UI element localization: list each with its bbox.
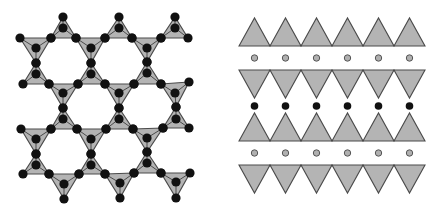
oxygen-atom-icon bbox=[86, 69, 95, 78]
black-cation-icon bbox=[375, 102, 383, 110]
oxygen-atom-icon bbox=[171, 177, 180, 186]
black-cation-icon bbox=[313, 102, 321, 110]
gray-cation-icon bbox=[251, 150, 257, 156]
oxygen-atom-icon bbox=[16, 124, 25, 133]
oxygen-atom-icon bbox=[86, 134, 95, 143]
oxygen-atom-icon bbox=[86, 149, 95, 158]
crystal-structure-figure bbox=[0, 0, 443, 210]
oxygen-atom-icon bbox=[142, 57, 151, 66]
oxygen-atom-icon bbox=[86, 58, 95, 67]
oxygen-atom-icon bbox=[86, 43, 95, 52]
oxygen-atom-icon bbox=[58, 88, 67, 97]
oxygen-atom-icon bbox=[142, 68, 151, 77]
black-cation-icon bbox=[282, 102, 290, 110]
oxygen-atom-icon bbox=[58, 12, 67, 21]
oxygen-atom-icon bbox=[18, 169, 27, 178]
oxygen-atom-icon bbox=[46, 33, 55, 42]
oxygen-atom-icon bbox=[73, 79, 82, 88]
oxygen-atom-icon bbox=[31, 58, 40, 67]
oxygen-atom-icon bbox=[18, 79, 27, 88]
oxygen-atom-icon bbox=[127, 33, 136, 42]
oxygen-atom-icon bbox=[171, 102, 180, 111]
oxygen-atom-icon bbox=[142, 158, 151, 167]
oxygen-atom-icon bbox=[114, 103, 123, 112]
oxygen-atom-icon bbox=[171, 114, 180, 123]
gray-cation-icon bbox=[251, 55, 257, 61]
gray-cation-icon bbox=[344, 55, 350, 61]
oxygen-atom-icon bbox=[74, 169, 83, 178]
oxygen-atom-icon bbox=[114, 23, 123, 32]
oxygen-atom-icon bbox=[114, 114, 123, 123]
oxygen-atom-icon bbox=[142, 147, 151, 156]
oxygen-atom-icon bbox=[31, 43, 40, 52]
oxygen-atom-icon bbox=[185, 168, 194, 177]
gray-cation-icon bbox=[375, 55, 381, 61]
oxygen-atom-icon bbox=[59, 194, 68, 203]
gray-cation-icon bbox=[313, 150, 319, 156]
oxygen-atom-icon bbox=[31, 134, 40, 143]
oxygen-atom-icon bbox=[170, 12, 179, 21]
gray-cation-icon bbox=[313, 55, 319, 61]
oxygen-atom-icon bbox=[183, 33, 192, 42]
oxygen-atom-icon bbox=[100, 33, 109, 42]
oxygen-atom-icon bbox=[59, 179, 68, 188]
figure-canvas bbox=[0, 0, 443, 210]
oxygen-atom-icon bbox=[142, 43, 151, 52]
black-cation-icon bbox=[344, 102, 352, 110]
oxygen-atom-icon bbox=[44, 169, 53, 178]
oxygen-atom-icon bbox=[170, 88, 179, 97]
gray-cation-icon bbox=[344, 150, 350, 156]
oxygen-atom-icon bbox=[31, 69, 40, 78]
oxygen-atom-icon bbox=[170, 23, 179, 32]
oxygen-atom-icon bbox=[129, 168, 138, 177]
oxygen-atom-icon bbox=[100, 79, 109, 88]
oxygen-atom-icon bbox=[115, 178, 124, 187]
oxygen-atom-icon bbox=[46, 124, 55, 133]
gray-cation-icon bbox=[282, 150, 288, 156]
black-cation-icon bbox=[251, 102, 259, 110]
oxygen-atom-icon bbox=[86, 160, 95, 169]
oxygen-atom-icon bbox=[129, 79, 138, 88]
oxygen-atom-icon bbox=[184, 123, 193, 132]
oxygen-atom-icon bbox=[156, 33, 165, 42]
oxygen-atom-icon bbox=[184, 77, 193, 86]
oxygen-atom-icon bbox=[31, 160, 40, 169]
oxygen-atom-icon bbox=[142, 133, 151, 142]
oxygen-atom-icon bbox=[100, 169, 109, 178]
gray-cation-icon bbox=[406, 150, 412, 156]
oxygen-atom-icon bbox=[31, 149, 40, 158]
oxygen-atom-icon bbox=[58, 23, 67, 32]
gray-cation-icon bbox=[406, 55, 412, 61]
oxygen-atom-icon bbox=[71, 33, 80, 42]
oxygen-atom-icon bbox=[171, 193, 180, 202]
oxygen-atom-icon bbox=[72, 124, 81, 133]
black-cation-icon bbox=[406, 102, 414, 110]
oxygen-atom-icon bbox=[114, 88, 123, 97]
oxygen-atom-icon bbox=[115, 193, 124, 202]
oxygen-atom-icon bbox=[156, 79, 165, 88]
oxygen-atom-icon bbox=[158, 123, 167, 132]
oxygen-atom-icon bbox=[58, 114, 67, 123]
oxygen-atom-icon bbox=[15, 33, 24, 42]
gray-cation-icon bbox=[375, 150, 381, 156]
oxygen-atom-icon bbox=[128, 124, 137, 133]
oxygen-atom-icon bbox=[156, 168, 165, 177]
oxygen-atom-icon bbox=[101, 124, 110, 133]
oxygen-atom-icon bbox=[58, 103, 67, 112]
oxygen-atom-icon bbox=[44, 79, 53, 88]
oxygen-atom-icon bbox=[114, 12, 123, 21]
gray-cation-icon bbox=[282, 55, 288, 61]
